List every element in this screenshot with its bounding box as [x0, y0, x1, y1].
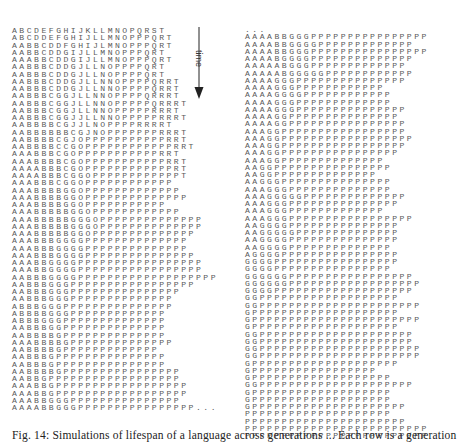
figure-caption: Fig. 14: Simulations of lifespan of a la… [12, 429, 457, 441]
right-simulation-column: ... AAAABBGGGPPPPPPPPPPPPPPPPAAAABBGGGGP… [245, 26, 429, 439]
time-axis-label: time [194, 50, 204, 67]
generation-row: AAAABBGGGPPPPPPPPPPPPPPPP... [12, 404, 218, 411]
left-simulation-column: ABCDEFGHIJKLLMNOPQRSTABCDDEFGHIJLLMNOPPP… [12, 27, 218, 411]
